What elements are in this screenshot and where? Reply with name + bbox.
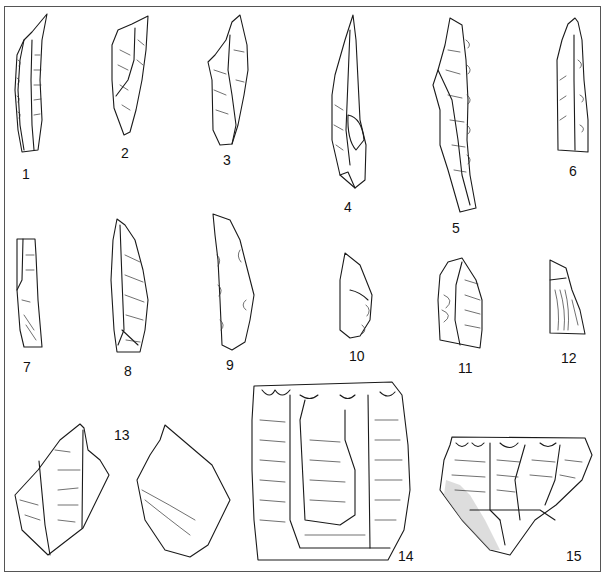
label-artifact-1: 1 xyxy=(22,167,30,181)
artifact-8-drawing xyxy=(111,219,148,352)
label-artifact-5: 5 xyxy=(452,221,460,235)
artifact-10-drawing xyxy=(340,253,372,338)
artifact-4-drawing xyxy=(332,15,366,188)
artifact-6-drawing xyxy=(557,18,588,152)
artifact-1-drawing xyxy=(15,14,47,152)
label-artifact-12: 12 xyxy=(561,351,577,365)
artifact-15-drawing xyxy=(440,437,592,555)
artifact-5-drawing xyxy=(433,18,476,212)
label-artifact-8: 8 xyxy=(124,364,132,378)
label-artifact-7: 7 xyxy=(23,360,31,374)
artifact-14-drawing xyxy=(252,382,410,560)
label-artifact-14: 14 xyxy=(398,549,414,563)
label-artifact-6: 6 xyxy=(569,164,577,178)
artifact-2-drawing xyxy=(112,16,148,135)
artifact-9-drawing xyxy=(213,214,254,350)
label-artifact-3: 3 xyxy=(223,153,231,167)
artifact-drawings xyxy=(0,0,607,579)
label-artifact-13: 13 xyxy=(114,428,130,442)
label-artifact-4: 4 xyxy=(344,200,352,214)
label-artifact-2: 2 xyxy=(121,146,129,160)
artifact-13-front-drawing xyxy=(15,424,109,555)
label-artifact-10: 10 xyxy=(349,349,365,363)
artifact-11-drawing xyxy=(438,258,482,348)
artifact-13-back-drawing xyxy=(137,425,230,557)
artifact-12-drawing xyxy=(550,260,585,334)
label-artifact-9: 9 xyxy=(226,358,234,372)
label-artifact-11: 11 xyxy=(458,361,473,375)
artifact-3-drawing xyxy=(208,15,248,145)
artifact-7-drawing xyxy=(17,239,42,347)
label-artifact-15: 15 xyxy=(566,549,582,563)
